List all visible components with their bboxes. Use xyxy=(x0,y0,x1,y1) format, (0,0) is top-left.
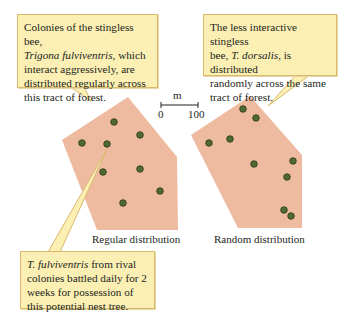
callout-nest-line: this potential nest tree. xyxy=(27,299,148,313)
colony-dot xyxy=(79,140,86,147)
scale-unit-label: m xyxy=(173,89,182,101)
callout-regular-line: Trigona fulviventris, which xyxy=(24,48,151,62)
colony-dot xyxy=(281,207,288,214)
scale-max-label: 100 xyxy=(188,108,205,120)
colony-dot xyxy=(284,174,291,181)
colony-dot xyxy=(157,188,164,195)
colony-dot xyxy=(100,169,107,176)
colony-dot xyxy=(120,200,127,207)
colony-dot xyxy=(288,213,295,220)
callout-random-line: bee, T. dorsalis, is distributed xyxy=(210,48,330,76)
callout-nest-line: T. fulviventris from rival xyxy=(27,257,148,271)
callout-random-line: The less interactive stingless xyxy=(210,20,330,48)
species-name: T. fulviventris xyxy=(27,258,88,270)
callout-regular-line: this tract of forest. xyxy=(24,90,151,104)
callout-random-line: tract of forest. xyxy=(210,90,330,104)
colony-dot xyxy=(227,136,234,143)
callout-regular: Colonies of the stingless bee, Trigona f… xyxy=(17,14,158,88)
colony-dot xyxy=(251,161,258,168)
colony-dot xyxy=(111,119,118,126)
colony-dot xyxy=(290,158,297,165)
label-random-distribution: Random distribution xyxy=(214,233,305,245)
callout-nest-line: weeks for possession of xyxy=(27,285,148,299)
colony-dot xyxy=(137,132,144,139)
callout-random: The less interactive stingless bee, T. d… xyxy=(203,14,337,76)
callout-nest-text: from rival xyxy=(88,258,136,270)
colony-dot xyxy=(240,106,247,113)
callout-regular-line: Colonies of the stingless bee, xyxy=(24,20,151,48)
callout-random-text: bee, xyxy=(210,49,231,61)
colony-dot xyxy=(137,166,144,173)
callout-regular-line: interact aggressively, are xyxy=(24,62,151,76)
species-name: T. dorsalis xyxy=(231,49,278,61)
colony-dot xyxy=(253,115,260,122)
callout-nest-line: colonies battled daily for 2 xyxy=(27,271,148,285)
species-name: Trigona fulviventris, xyxy=(24,49,115,61)
callout-regular-line: distributed regularly across xyxy=(24,76,151,90)
scale-min-label: 0 xyxy=(158,108,164,120)
figure-stage: m 0 100 Colonies of the stingless bee, T… xyxy=(0,0,354,319)
callout-random-line: randomly across the same xyxy=(210,76,330,90)
label-regular-distribution: Regular distribution xyxy=(92,233,180,245)
colony-dot xyxy=(104,141,111,148)
colony-dot xyxy=(206,140,213,147)
callout-regular-text: which xyxy=(115,49,145,61)
callout-nest-tree: T. fulviventris from rival colonies batt… xyxy=(20,251,155,309)
